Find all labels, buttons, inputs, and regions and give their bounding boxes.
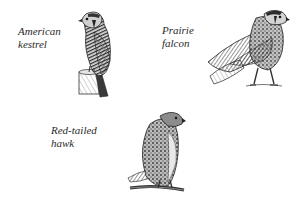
label-line: American bbox=[18, 25, 61, 38]
label-line: falcon bbox=[162, 37, 194, 50]
label-line: Prairie bbox=[162, 24, 194, 37]
american-kestrel-illustration bbox=[74, 8, 124, 100]
label-line: Red-tailed bbox=[51, 124, 97, 137]
prairie-falcon-illustration bbox=[206, 8, 296, 94]
label-line: hawk bbox=[51, 137, 97, 150]
label-line: kestrel bbox=[18, 38, 61, 51]
label-american-kestrel: American kestrel bbox=[18, 25, 61, 51]
label-red-tailed-hawk: Red-tailed hawk bbox=[51, 124, 97, 150]
label-prairie-falcon: Prairie falcon bbox=[162, 24, 194, 50]
red-tailed-hawk-illustration bbox=[124, 110, 190, 200]
